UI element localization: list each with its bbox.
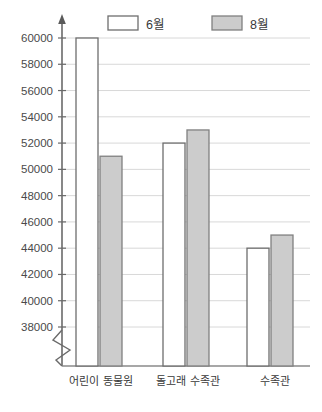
bar-8월-돌고래 수족관	[187, 130, 209, 366]
y-axis-tick-label: 56000	[21, 85, 53, 97]
legend-label-1: 8월	[250, 18, 269, 32]
y-axis-tick-label: 38000	[21, 321, 53, 333]
chart-canvas: 3800040000420004400046000480005000052000…	[0, 0, 322, 412]
bar-chart: 3800040000420004400046000480005000052000…	[0, 0, 322, 412]
y-axis-tick-label: 60000	[21, 32, 53, 44]
legend-swatch-0	[108, 16, 138, 30]
y-axis-tick-label: 40000	[21, 295, 53, 307]
bar-8월-수족관	[271, 235, 293, 366]
y-axis-tick-label: 50000	[21, 163, 53, 175]
bar-6월-돌고래 수족관	[163, 143, 185, 366]
y-axis-tick-label: 46000	[21, 216, 53, 228]
y-axis-tick-label: 48000	[21, 190, 53, 202]
y-axis-tick-label: 44000	[21, 242, 53, 254]
x-axis-label-2: 수족관	[260, 375, 290, 387]
y-axis-tick-label: 58000	[21, 58, 53, 70]
bar-8월-어린이 동물원	[100, 156, 122, 366]
bar-6월-수족관	[247, 248, 269, 366]
bar-6월-어린이 동물원	[76, 38, 98, 366]
x-axis-label-0: 어린이 동물원	[69, 375, 132, 387]
y-axis-tick-label: 42000	[21, 268, 53, 280]
legend-label-0: 6월	[146, 18, 165, 32]
legend-swatch-1	[212, 16, 242, 30]
x-axis-label-1: 돌고래 수족관	[156, 375, 219, 387]
y-axis-tick-label: 54000	[21, 111, 53, 123]
y-axis-tick-label: 52000	[21, 137, 53, 149]
